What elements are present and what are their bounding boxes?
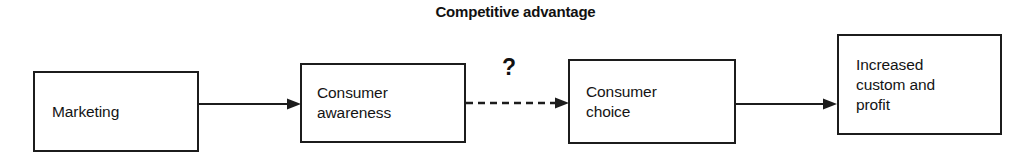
node-marketing-label: Marketing (35, 102, 119, 122)
node-increased-custom-and-profit: Increased custom and profit (837, 34, 1002, 135)
node-consumer-awareness: Consumer awareness (300, 63, 466, 143)
arrow-consumer-choice-to-increased-custom (734, 97, 840, 111)
node-consumer-choice-label: Consumer choice (570, 82, 657, 122)
node-increased-custom-and-profit-label: Increased custom and profit (839, 55, 935, 115)
diagram-canvas: Competitive advantage Marketing Consumer… (0, 0, 1035, 164)
node-marketing: Marketing (33, 71, 199, 152)
page-title-text: Competitive advantage (435, 3, 595, 20)
node-consumer-awareness-label: Consumer awareness (302, 83, 391, 123)
arrow-consumer-awareness-to-consumer-choice-dashed (466, 96, 572, 110)
node-consumer-choice: Consumer choice (568, 59, 736, 144)
page-title: Competitive advantage (0, 3, 1035, 20)
uncertainty-question-mark: ? (494, 55, 524, 79)
arrow-marketing-to-consumer-awareness (197, 97, 303, 111)
